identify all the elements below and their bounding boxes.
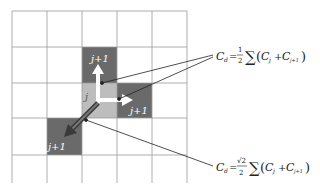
label-up: j+1: [89, 53, 109, 64]
label-diagonal: j+1: [46, 141, 66, 152]
svg-text:d: d: [224, 167, 228, 174]
svg-text:): ): [305, 160, 310, 175]
svg-text:j+1: j+1: [289, 57, 299, 64]
pointer-dot: [101, 82, 104, 85]
svg-text:): ): [301, 49, 306, 64]
svg-text:2: 2: [239, 169, 243, 177]
formula-diagonal: C d = √2 2 ∑ ( C j + C j+1 ): [216, 157, 310, 177]
svg-text:1: 1: [238, 46, 242, 54]
label-right: j+1: [128, 105, 148, 116]
pointer-dot: [118, 98, 121, 101]
pointer-dot: [85, 119, 88, 122]
pointer-line: [86, 120, 213, 166]
svg-text:√2: √2: [237, 157, 246, 165]
diagram: j+1 j+1 j j+1 C d = 1 2 ∑ ( C j + C j: [0, 0, 320, 194]
svg-text:2: 2: [238, 57, 242, 65]
svg-text:d: d: [224, 56, 228, 63]
svg-text:∑: ∑: [245, 48, 256, 66]
pointer-line: [119, 57, 213, 99]
formula-orthogonal: C d = 1 2 ∑ ( C j + C j+1 ): [216, 46, 306, 66]
svg-text:j+1: j+1: [293, 168, 303, 175]
pointer-line: [102, 55, 213, 83]
svg-text:∑: ∑: [249, 159, 260, 177]
svg-text:=: =: [229, 51, 237, 62]
